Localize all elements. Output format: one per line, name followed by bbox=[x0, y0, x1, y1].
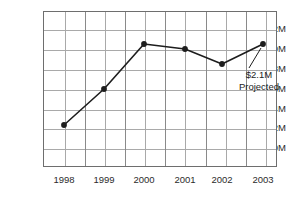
gridline-horizontal bbox=[44, 149, 276, 150]
gridline-vertical bbox=[226, 12, 227, 166]
gridline-horizontal bbox=[44, 110, 276, 111]
gridline-horizontal bbox=[44, 50, 276, 51]
chart-figure: $2.2M 2.0M 1.8M 1.6M 1.4M 1.2M 1.0M bbox=[0, 0, 291, 201]
gridline-horizontal bbox=[44, 30, 276, 31]
gridline-vertical bbox=[185, 12, 186, 166]
gridline-horizontal bbox=[44, 129, 276, 130]
x-axis-tick-label-1999: 1999 bbox=[84, 174, 124, 185]
x-axis-tick-label-2000: 2000 bbox=[124, 174, 164, 185]
gridline-vertical-major bbox=[125, 12, 126, 166]
gridline-vertical bbox=[65, 12, 66, 166]
projection-annotation: $2.1M Projected bbox=[228, 69, 290, 92]
annotation-value: $2.1M bbox=[228, 69, 290, 81]
x-axis-tick-label-2002: 2002 bbox=[202, 174, 242, 185]
x-axis-tick-label-2003: 2003 bbox=[243, 174, 283, 185]
gridline-vertical-major bbox=[85, 12, 86, 166]
gridline-vertical-major bbox=[165, 12, 166, 166]
gridline-vertical-major bbox=[206, 12, 207, 166]
x-axis-tick-label-2001: 2001 bbox=[165, 174, 205, 185]
gridline-vertical bbox=[145, 12, 146, 166]
annotation-label: Projected bbox=[228, 81, 290, 93]
gridline-vertical bbox=[105, 12, 106, 166]
x-axis-tick-label-1998: 1998 bbox=[44, 174, 84, 185]
